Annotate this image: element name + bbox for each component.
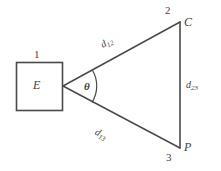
- angle-arc-theta: [92, 70, 97, 102]
- node-3-number: 3: [166, 152, 172, 163]
- node-2-number: 2: [165, 5, 171, 16]
- node-2-letter: C: [184, 16, 192, 28]
- edge-d13-line: [63, 86, 180, 148]
- node-1-number: 1: [34, 49, 40, 60]
- angle-theta-label: θ: [84, 81, 90, 92]
- edge-d23-label: d23: [186, 80, 198, 90]
- node-1-letter: E: [33, 79, 40, 91]
- edge-d12-line: [63, 22, 180, 86]
- edge-d23-subscript: 23: [191, 84, 198, 92]
- node-3-letter: P: [184, 141, 191, 153]
- geometry-diagram: 1 E θ d12 d13 d23 2 C 3 P: [0, 0, 221, 171]
